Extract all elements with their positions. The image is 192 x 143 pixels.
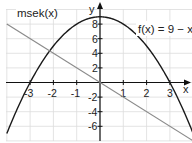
msek-label: msek(x) (17, 7, 58, 19)
x-tick-label: -1 (71, 87, 80, 99)
f-label: f(x) = 9 − x2 (138, 21, 192, 35)
y-tick-label: 6 (92, 33, 98, 45)
y-tick-label: -6 (88, 120, 97, 132)
x-tick-label: -2 (47, 87, 56, 99)
y-axis-label: y (89, 3, 95, 15)
x-tick-label: 3 (167, 87, 173, 99)
y-axis-arrow-icon (97, 2, 103, 9)
y-tick-label: 8 (92, 18, 98, 30)
x-axis-label: x (183, 83, 189, 95)
y-tick-label: 2 (92, 62, 98, 74)
x-tick-label: 2 (144, 87, 150, 99)
function-plot: -3-2-1123-6-4-22468 msek(x) f(x) = 9 − x… (0, 0, 192, 143)
y-tick-label: 4 (92, 47, 98, 59)
y-tick-label: -4 (88, 106, 97, 118)
y-tick-label: -2 (88, 91, 97, 103)
